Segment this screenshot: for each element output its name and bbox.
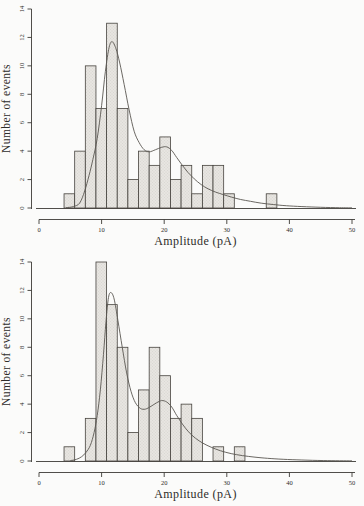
histogram-bar — [170, 418, 181, 461]
y-tick-label: 2 — [18, 178, 25, 181]
histogram-bar — [266, 194, 277, 208]
x-tick-label: 30 — [224, 226, 231, 233]
y-tick-label: 4 — [18, 402, 25, 406]
histogram-bar — [96, 109, 107, 209]
histogram-bar — [75, 151, 86, 208]
histogram-bar — [85, 66, 96, 208]
histogram-bar — [181, 165, 192, 208]
histogram-bar — [117, 347, 128, 461]
x-axis-title: Amplitude (pA) — [154, 487, 237, 501]
y-tick-label: 14 — [18, 258, 25, 265]
y-tick-label: 0 — [18, 459, 25, 462]
histogram-bar — [192, 194, 203, 208]
figure: 02468101214Number of events01020304050Am… — [0, 0, 364, 506]
histogram-bar — [107, 305, 118, 461]
x-tick-label: 30 — [224, 479, 231, 486]
y-tick-label: 10 — [18, 63, 25, 70]
x-tick-label: 40 — [286, 479, 293, 486]
x-axis-title: Amplitude (pA) — [154, 234, 237, 248]
y-tick-label: 10 — [18, 316, 25, 323]
x-tick-label: 20 — [161, 226, 168, 233]
y-tick-label: 8 — [18, 93, 25, 96]
histogram-bar — [64, 194, 75, 208]
histogram-bar — [139, 151, 150, 208]
y-tick-label: 0 — [18, 206, 25, 209]
x-tick-label: 0 — [37, 479, 40, 486]
x-tick-label: 50 — [349, 226, 356, 233]
histogram-bar — [128, 433, 139, 461]
histogram-bar — [139, 390, 150, 461]
histogram-bar — [117, 109, 128, 209]
x-tick-label: 50 — [349, 479, 356, 486]
y-axis-title: Number of events — [0, 64, 12, 153]
top-histogram-panel: 02468101214Number of events01020304050Am… — [0, 0, 364, 253]
y-tick-label: 6 — [18, 120, 25, 124]
y-axis-title: Number of events — [0, 317, 12, 406]
x-tick-label: 10 — [98, 226, 105, 233]
x-tick-label: 0 — [37, 226, 40, 233]
histogram-bar — [64, 447, 75, 461]
y-tick-label: 12 — [18, 287, 25, 294]
histogram-bar — [149, 165, 160, 208]
histogram-bar — [181, 404, 192, 461]
x-tick-label: 20 — [161, 479, 168, 486]
histogram-bar — [128, 180, 139, 208]
bottom-histogram-panel: 02468101214Number of events01020304050Am… — [0, 253, 364, 506]
x-tick-label: 40 — [286, 226, 293, 233]
histogram-bar — [160, 376, 171, 461]
histogram-bar — [213, 165, 224, 208]
y-tick-label: 6 — [18, 373, 25, 377]
y-tick-label: 2 — [18, 431, 25, 434]
y-tick-label: 8 — [18, 346, 25, 349]
histogram-bar — [85, 418, 96, 461]
y-tick-label: 12 — [18, 34, 25, 41]
bottom-histogram: 02468101214Number of events01020304050Am… — [0, 253, 364, 506]
y-tick-label: 4 — [18, 149, 25, 153]
histogram-bar — [96, 262, 107, 461]
histogram-bar — [234, 447, 245, 461]
top-histogram: 02468101214Number of events01020304050Am… — [0, 0, 364, 253]
histogram-bar — [170, 180, 181, 208]
y-tick-label: 14 — [18, 5, 25, 12]
x-tick-label: 10 — [98, 479, 105, 486]
